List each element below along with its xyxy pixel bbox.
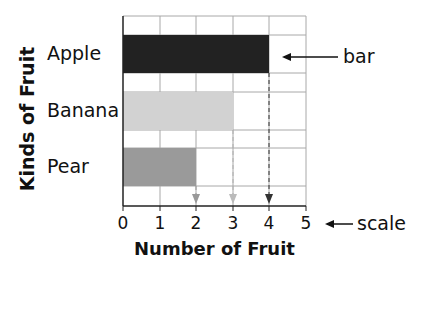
- x-tick-4: 4: [259, 213, 279, 233]
- y-axis-title: Kinds of Fruit: [16, 34, 38, 204]
- category-label-apple: Apple: [47, 42, 101, 64]
- x-axis-title: Number of Fruit: [123, 238, 306, 259]
- x-tick-3: 3: [223, 213, 243, 233]
- scale-annotation: scale: [357, 212, 406, 234]
- category-label-banana: Banana: [47, 99, 119, 121]
- x-tick-0: 0: [113, 213, 133, 233]
- category-label-pear: Pear: [47, 155, 89, 177]
- bar-apple: [123, 35, 269, 73]
- x-tick-2: 2: [186, 213, 206, 233]
- x-tick-5: 5: [296, 213, 316, 233]
- bar-pear: [123, 148, 196, 186]
- bar-annotation: bar: [343, 45, 375, 67]
- x-tick-1: 1: [150, 213, 170, 233]
- bar-banana: [123, 92, 233, 130]
